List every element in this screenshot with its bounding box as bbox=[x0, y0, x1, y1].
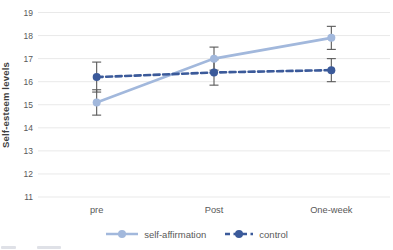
y-tick-label: 14 bbox=[24, 123, 34, 133]
x-category-label: pre bbox=[90, 205, 103, 215]
cropped-text-artifact bbox=[37, 246, 61, 249]
data-point-self-affirmation bbox=[93, 98, 101, 106]
cropped-text-artifact bbox=[1, 246, 16, 249]
x-category-label: One-week bbox=[310, 205, 353, 215]
data-point-control bbox=[93, 73, 101, 81]
legend-swatch-solid-line-icon bbox=[105, 228, 139, 240]
y-tick-label: 17 bbox=[24, 54, 34, 64]
y-tick-label: 11 bbox=[24, 192, 33, 202]
data-point-control bbox=[327, 66, 335, 74]
legend-item-self-affirmation: self-affirmation bbox=[105, 228, 206, 240]
legend-label-control: control bbox=[259, 229, 288, 240]
legend: self-affirmation control bbox=[0, 228, 393, 240]
y-tick-label: 16 bbox=[24, 77, 34, 87]
y-tick-label: 19 bbox=[24, 8, 34, 18]
y-axis-title: Self-esteem levels bbox=[0, 10, 14, 200]
y-tick-label: 13 bbox=[24, 146, 34, 156]
x-category-label: Post bbox=[205, 205, 224, 215]
chart-container: Self-esteem levels 111213141516171819pre… bbox=[0, 0, 393, 250]
data-point-self-affirmation bbox=[327, 34, 335, 42]
y-tick-label: 15 bbox=[24, 100, 34, 110]
plot-area: 111213141516171819prePostOne-week bbox=[0, 0, 393, 222]
data-point-self-affirmation bbox=[210, 55, 218, 63]
legend-label-self-affirmation: self-affirmation bbox=[144, 229, 206, 240]
y-tick-label: 18 bbox=[24, 31, 34, 41]
data-point-control bbox=[210, 68, 218, 76]
legend-swatch-dashed-line-icon bbox=[224, 228, 254, 240]
legend-item-control: control bbox=[224, 228, 288, 240]
y-tick-label: 12 bbox=[24, 169, 34, 179]
